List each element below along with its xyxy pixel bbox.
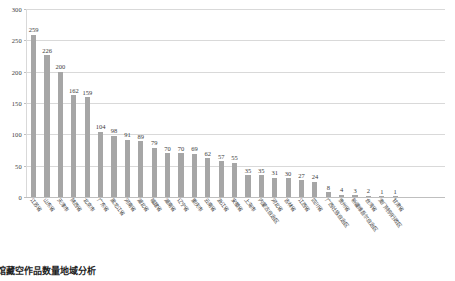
bar-slot: 1 xyxy=(389,9,402,197)
bar: 35 xyxy=(245,175,250,197)
bar: 57 xyxy=(219,161,224,197)
y-axis-tick-mark xyxy=(24,134,26,135)
bar: 30 xyxy=(286,178,291,197)
y-axis-tick-label: 250 xyxy=(12,37,22,44)
bar-slot: 31 xyxy=(268,9,281,197)
bar-slot: 79 xyxy=(148,9,161,197)
x-axis-label: 四川省 xyxy=(310,198,323,213)
bar: 62 xyxy=(205,158,210,197)
chart-container: 050100150200250300 259226200162159104989… xyxy=(0,0,455,281)
bar: 70 xyxy=(165,153,170,197)
bar-value-label: 30 xyxy=(285,171,292,178)
x-axis-label: 上海市 xyxy=(243,198,256,213)
bar-value-label: 2 xyxy=(367,188,370,195)
bar-value-label: 4 xyxy=(340,187,343,194)
bar-slot: 8 xyxy=(322,9,335,197)
bar: 24 xyxy=(312,182,317,197)
bar-value-label: 70 xyxy=(164,146,171,153)
bar-slot: 98 xyxy=(107,9,120,197)
bar-slot: 27 xyxy=(295,9,308,197)
bar-slot: 2 xyxy=(362,9,375,197)
bar-value-label: 35 xyxy=(245,168,252,175)
bar-value-label: 69 xyxy=(191,146,198,153)
bar-slot: 57 xyxy=(214,9,227,197)
x-axis-labels: 江苏省山东省天津市陕西省北京市广东省黑龙江省河南省湖北省福建省湖南省辽宁省重庆市… xyxy=(27,198,446,268)
y-axis-tick-mark xyxy=(24,103,26,104)
bar-value-label: 91 xyxy=(124,132,131,139)
bar-value-label: 3 xyxy=(353,188,356,195)
bar-slot: 55 xyxy=(228,9,241,197)
bar-value-label: 57 xyxy=(218,154,225,161)
bar-slot: 259 xyxy=(27,9,40,197)
x-axis-label: 福建省 xyxy=(149,198,162,213)
bar-value-label: 35 xyxy=(258,168,265,175)
bar-slot: 70 xyxy=(174,9,187,197)
bar: 79 xyxy=(152,148,157,198)
bar-slot: 35 xyxy=(241,9,254,197)
bar-value-label: 162 xyxy=(69,88,79,95)
bar: 200 xyxy=(58,72,63,197)
bar: 91 xyxy=(125,140,130,197)
bar: 70 xyxy=(178,153,183,197)
bar: 69 xyxy=(192,154,197,197)
y-axis-tick-label: 50 xyxy=(15,162,22,169)
bar-value-label: 159 xyxy=(82,90,92,97)
bar-series: 2592262001621591049891897970706962575535… xyxy=(27,9,445,197)
x-axis-label: 吉林省 xyxy=(283,198,296,213)
bar-slot: 1 xyxy=(375,9,388,197)
x-axis-label: 天津市 xyxy=(55,198,68,213)
y-axis-tick-mark xyxy=(24,166,26,167)
bar-value-label: 1 xyxy=(394,189,397,196)
bar-value-label: 8 xyxy=(327,185,330,192)
y-axis-tick-label: 150 xyxy=(12,100,22,107)
plot-area: 050100150200250300 259226200162159104989… xyxy=(26,9,445,197)
bar-slot: 104 xyxy=(94,9,107,197)
bar-slot: 35 xyxy=(255,9,268,197)
bar: 35 xyxy=(259,175,264,197)
bar-value-label: 104 xyxy=(96,124,106,131)
bar: 162 xyxy=(71,95,76,197)
bar-value-label: 259 xyxy=(29,27,39,34)
bar-value-label: 70 xyxy=(178,146,185,153)
bar: 3 xyxy=(352,195,357,197)
x-axis-label: 陕西省 xyxy=(69,198,82,213)
bar-value-label: 226 xyxy=(42,48,52,55)
bar-slot: 89 xyxy=(134,9,147,197)
bar-slot: 200 xyxy=(54,9,67,197)
bar-slot: 3 xyxy=(348,9,361,197)
bar: 89 xyxy=(138,141,143,197)
bar-value-label: 55 xyxy=(231,155,238,162)
x-axis-label: 浙江省 xyxy=(216,198,229,213)
x-axis-label: 辽宁省 xyxy=(176,198,189,213)
bar: 31 xyxy=(272,178,277,197)
bar-value-label: 1 xyxy=(380,189,383,196)
y-axis-tick-label: 100 xyxy=(12,131,22,138)
y-axis-tick-label: 300 xyxy=(12,6,22,13)
bar-value-label: 79 xyxy=(151,140,158,147)
bar: 98 xyxy=(111,136,116,197)
bar-slot: 69 xyxy=(188,9,201,197)
x-axis-label: 广东省 xyxy=(96,198,109,213)
y-axis-tick-mark xyxy=(24,9,26,10)
x-axis-label: 湖南省 xyxy=(163,198,176,213)
bar: 259 xyxy=(31,35,36,197)
x-axis-label: 江苏省 xyxy=(29,198,42,213)
bar: 159 xyxy=(85,97,90,197)
bar-slot: 159 xyxy=(81,9,94,197)
bar: 27 xyxy=(299,180,304,197)
bar-slot: 70 xyxy=(161,9,174,197)
y-axis-tick-label: 0 xyxy=(19,194,22,201)
bar-slot: 24 xyxy=(308,9,321,197)
bar-slot: 91 xyxy=(121,9,134,197)
y-axis-tick-mark xyxy=(24,40,26,41)
bar-slot: 4 xyxy=(335,9,348,197)
x-axis-label: 江西省 xyxy=(297,198,310,213)
x-axis-label: 山东省 xyxy=(42,198,55,213)
bar-value-label: 62 xyxy=(205,151,212,158)
x-axis-label: 湖北省 xyxy=(136,198,149,213)
bar-value-label: 27 xyxy=(298,173,305,180)
bar-slot: 162 xyxy=(67,9,80,197)
bar: 226 xyxy=(44,55,49,197)
bar-value-label: 98 xyxy=(111,128,118,135)
bar: 55 xyxy=(232,163,237,197)
